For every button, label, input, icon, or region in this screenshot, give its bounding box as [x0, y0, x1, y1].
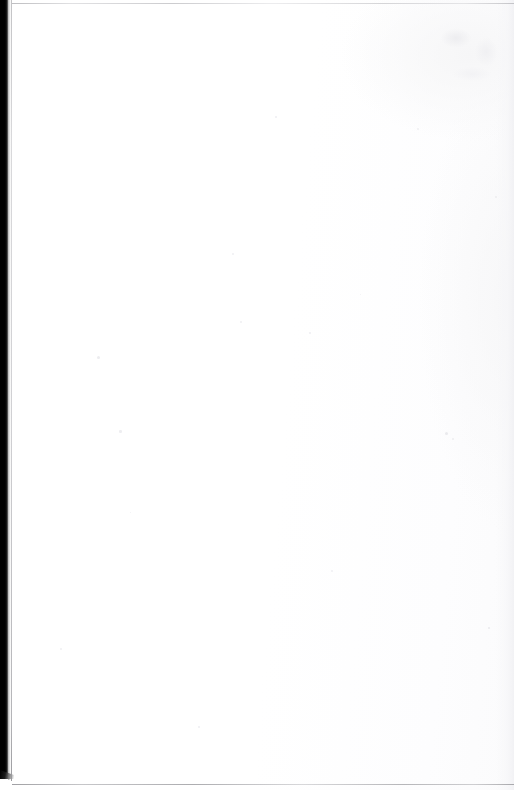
scan-smudge: [438, 26, 510, 84]
scanned-page: [0, 0, 514, 790]
page-edge-line: [11, 0, 12, 781]
right-margin-shading: [496, 0, 514, 790]
bottom-horizontal-rule: [12, 784, 514, 785]
paper-surface: [0, 0, 514, 790]
top-horizontal-rule: [12, 3, 514, 4]
binding-gutter-shadow: [0, 0, 8, 777]
